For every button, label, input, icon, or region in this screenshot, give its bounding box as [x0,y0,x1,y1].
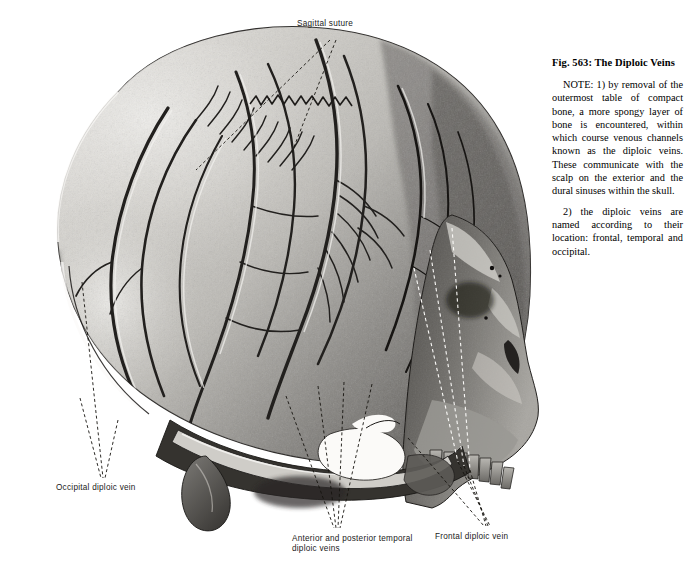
callout-occipital-diploic-vein: Occipital diploic vein [56,483,136,493]
figure-caption-column: Fig. 563: The Diploic Veins NOTE: 1) by … [552,56,683,265]
callout-frontal-diploic-vein: Frontal diploic vein [435,532,508,542]
caption-paragraph-2: 2) the diploic veins are named according… [552,205,683,258]
callout-sagittal-suture: Sagittal suture [297,19,353,29]
figure-page: Sagittal suture Occipital diploic vein A… [0,0,689,576]
figure-caption-title: Fig. 563: The Diploic Veins [552,56,683,69]
caption-paragraph-1: NOTE: 1) by removal of the outermost tab… [552,78,683,198]
callout-temporal-diploic-veins: Anterior and posterior temporal diploic … [292,534,413,553]
skull-illustration-panel: Sagittal suture Occipital diploic vein A… [0,0,545,576]
